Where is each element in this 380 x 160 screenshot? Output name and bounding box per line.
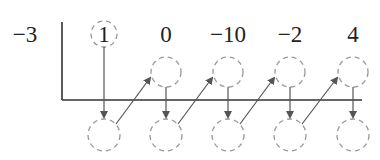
result-circle-2 [150,119,182,151]
result-circle-3 [212,119,244,151]
product-circle-2 [213,57,243,87]
multiply-up-arrow-3 [240,78,274,124]
diagram-canvas: −3 1 0 −10 −2 4 [0,0,380,160]
multiply-up-arrow-2 [178,78,212,124]
result-circle-4 [274,119,306,151]
coefficient-5: 4 [347,22,359,47]
coefficient-2: 0 [160,22,172,47]
result-circle-1 [88,119,120,151]
coefficient-4: −2 [278,22,302,47]
result-circle-5 [337,119,369,151]
multiply-up-arrow-1 [116,78,150,124]
product-circle-3 [275,57,305,87]
divisor: −3 [13,22,37,47]
synthetic-division-diagram: −3 1 0 −10 −2 4 [0,0,380,160]
product-circle-1 [151,57,181,87]
coefficient-3: −10 [210,22,246,47]
coefficient-1: 1 [98,22,110,47]
product-circle-4 [338,57,368,87]
multiply-up-arrow-4 [302,78,337,124]
